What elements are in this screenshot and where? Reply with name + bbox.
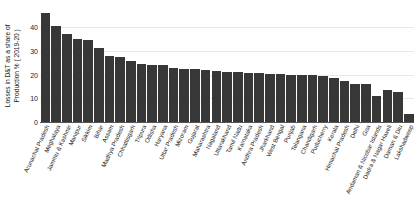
bar [318, 76, 328, 122]
bar [222, 72, 232, 122]
bar [147, 65, 157, 122]
bar [179, 69, 189, 122]
bar [169, 68, 179, 122]
bar [244, 73, 254, 122]
bar [350, 84, 360, 122]
bar [383, 90, 393, 122]
bar [297, 75, 307, 122]
bar [73, 39, 83, 122]
bar [254, 73, 264, 122]
bar [41, 13, 51, 122]
bar [105, 56, 115, 122]
x-tick-cell: Lakshadweep [403, 124, 414, 223]
bar [190, 69, 200, 122]
bar-series [40, 8, 414, 122]
x-tick-label: Delhi [349, 124, 360, 139]
x-axis-line [40, 122, 414, 123]
x-tick-label: Sikkim [81, 124, 94, 143]
y-axis-ticks: 010203040 [24, 8, 40, 122]
bar [201, 70, 211, 122]
y-tick-label: 30 [30, 47, 38, 54]
bar [286, 75, 296, 123]
bar [158, 65, 168, 122]
bar [361, 84, 371, 122]
bar [62, 34, 72, 122]
x-tick-cell: Sikkim [83, 124, 94, 223]
bar [372, 96, 382, 122]
bar [83, 40, 93, 122]
y-tick-label: 10 [30, 95, 38, 102]
y-axis-title-line2: Production % ( 2019-20 ) [13, 24, 22, 107]
bar [404, 114, 414, 122]
x-tick-cell: Himachal Pradesh [339, 124, 350, 223]
y-tick-label: 40 [30, 24, 38, 31]
chart-figure: Losses in D&T as a share of Production %… [0, 0, 417, 223]
bar [329, 78, 339, 122]
bar [276, 74, 286, 122]
bar [233, 72, 243, 122]
y-tick-label: 0 [34, 119, 38, 126]
y-axis-title: Losses in D&T as a share of Production %… [0, 0, 26, 131]
x-axis-tick-labels: Arunachal PradeshMeghalayaJammu & Kashmi… [40, 124, 414, 223]
bar [94, 48, 104, 122]
bar [51, 26, 61, 122]
bar [308, 75, 318, 122]
plot-area [40, 8, 414, 122]
bar [126, 61, 136, 122]
bar [115, 57, 125, 122]
bar [340, 81, 350, 122]
bar [265, 74, 275, 122]
bar [137, 64, 147, 122]
bar [393, 92, 403, 122]
y-axis-title-text: Losses in D&T as a share of Production %… [4, 24, 22, 107]
y-tick-label: 20 [30, 71, 38, 78]
bar [212, 71, 222, 122]
y-axis-title-line1: Losses in D&T as a share of [4, 24, 11, 107]
